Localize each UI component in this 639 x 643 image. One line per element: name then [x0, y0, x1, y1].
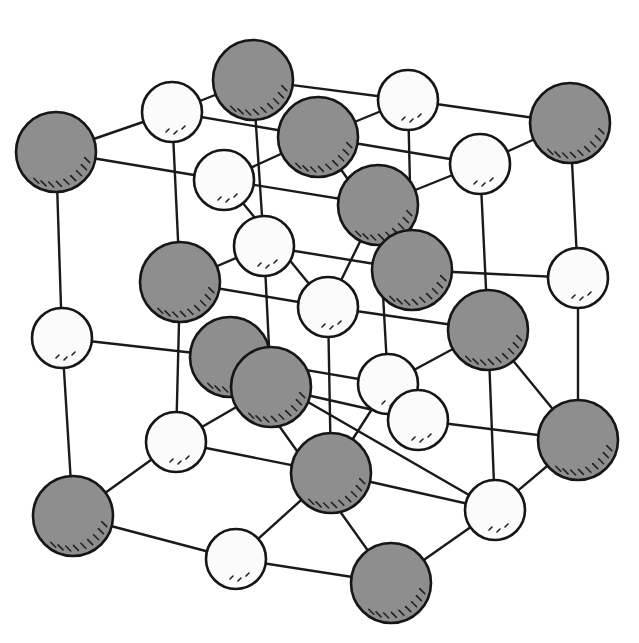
small-ion: [142, 82, 202, 142]
small-ion: [465, 480, 525, 540]
large-ion: [213, 40, 293, 120]
ions: [16, 40, 618, 623]
small-ion: [548, 248, 608, 308]
small-ion: [146, 412, 206, 472]
large-ion: [33, 476, 113, 556]
large-ion: [351, 543, 431, 623]
crystal-lattice-diagram: [0, 0, 639, 643]
large-ion: [538, 400, 618, 480]
large-ion: [448, 290, 528, 370]
large-ion: [372, 230, 452, 310]
large-ion: [16, 112, 96, 192]
large-ion: [291, 433, 371, 513]
small-ion: [298, 277, 358, 337]
large-ion: [530, 83, 610, 163]
large-ion: [231, 347, 311, 427]
small-ion: [388, 390, 448, 450]
small-ion: [234, 216, 294, 276]
small-ion: [32, 308, 92, 368]
large-ion: [278, 97, 358, 177]
small-ion: [378, 70, 438, 130]
small-ion: [206, 529, 266, 589]
large-ion: [140, 242, 220, 322]
small-ion: [194, 150, 254, 210]
small-ion: [450, 134, 510, 194]
